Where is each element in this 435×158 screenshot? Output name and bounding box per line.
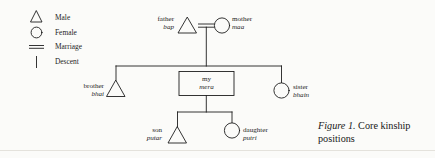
son-label: son putar bbox=[120, 126, 162, 142]
daughter-label: daughter putri bbox=[243, 126, 268, 142]
legend-label-male: Male bbox=[55, 14, 70, 22]
mother-circle-icon bbox=[214, 18, 229, 33]
legend-label-descent: Descent bbox=[55, 58, 79, 66]
mother-label-english: mother bbox=[232, 15, 252, 23]
figure-caption-number: Figure 1. bbox=[318, 120, 356, 131]
father-label-vernacular: bap bbox=[132, 23, 174, 31]
mother-label: mother maa bbox=[232, 15, 252, 31]
sister-label: sister bhain bbox=[293, 83, 309, 99]
son-label-english: son bbox=[120, 126, 162, 134]
brother-label: brother bhai bbox=[62, 82, 104, 98]
legend-male-triangle-icon bbox=[31, 11, 42, 22]
father-triangle-icon bbox=[179, 18, 197, 34]
legend-label-female: Female bbox=[55, 29, 77, 37]
sister-circle-icon bbox=[274, 83, 289, 98]
ego-label-english: my bbox=[180, 75, 234, 83]
daughter-label-vernacular: putri bbox=[243, 134, 268, 142]
father-label: father bap bbox=[132, 15, 174, 31]
brother-label-vernacular: bhai bbox=[62, 90, 104, 98]
mother-label-vernacular: maa bbox=[232, 23, 252, 31]
ego-label-vernacular: mera bbox=[180, 83, 234, 91]
sister-label-vernacular: bhain bbox=[293, 91, 309, 99]
daughter-circle-icon bbox=[224, 123, 239, 138]
brother-triangle-icon bbox=[107, 81, 125, 97]
sister-label-english: sister bbox=[293, 83, 309, 91]
legend-female-circle-icon bbox=[31, 27, 42, 38]
brother-label-english: brother bbox=[62, 82, 104, 90]
father-label-english: father bbox=[132, 15, 174, 23]
figure-caption: Figure 1. Core kinship positions bbox=[318, 120, 430, 145]
daughter-label-english: daughter bbox=[243, 126, 268, 134]
ego-label: my mera bbox=[180, 75, 234, 92]
son-label-vernacular: putar bbox=[120, 134, 162, 142]
legend-label-marriage: Marriage bbox=[55, 43, 82, 51]
kinship-figure: Male Female Marriage Descent father bap … bbox=[0, 0, 435, 158]
son-triangle-icon bbox=[169, 127, 187, 143]
